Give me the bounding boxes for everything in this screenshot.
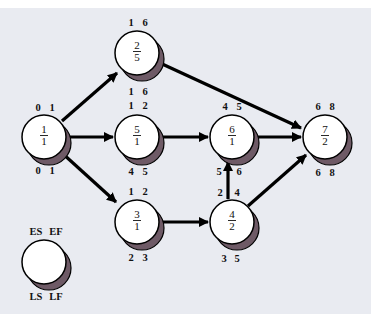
late-start: 2	[128, 252, 133, 263]
legend-ef: EF	[49, 226, 62, 237]
late-start: 6	[315, 167, 320, 178]
late-finish: 5	[142, 166, 147, 177]
late-finish: 3	[142, 252, 147, 263]
duration: 2	[229, 220, 235, 232]
activity-number: 4	[229, 208, 235, 220]
late-finish: 6	[142, 86, 147, 97]
early-finish: 1	[49, 102, 54, 113]
early-finish: 5	[236, 101, 241, 112]
duration: 1	[41, 135, 47, 147]
early-start: 6	[315, 101, 320, 112]
legend-lf: LF	[49, 291, 62, 302]
early-start: 1	[128, 17, 133, 28]
early-start: 1	[128, 186, 133, 197]
early-finish: 2	[142, 186, 147, 197]
network-diagram: 1 1 0 1 0 1 2 5 1 6 1 6 5 1 1 2 4 5 6 1	[0, 0, 371, 314]
early-start: 0	[35, 102, 40, 113]
duration: 5	[134, 51, 140, 63]
top-band	[0, 0, 371, 8]
legend-ls: LS	[30, 291, 43, 302]
late-start: 3	[221, 253, 226, 264]
late-finish: 8	[329, 167, 334, 178]
early-finish: 4	[234, 187, 240, 198]
early-finish: 8	[329, 101, 334, 112]
legend-es: ES	[30, 226, 43, 237]
activity-number: 2	[134, 39, 140, 51]
early-start: 1	[128, 100, 133, 111]
late-finish: 1	[49, 165, 54, 176]
duration: 1	[134, 220, 140, 232]
activity-number: 6	[229, 123, 235, 135]
late-finish: 5	[234, 253, 239, 264]
early-finish: 6	[142, 17, 147, 28]
activity-number: 5	[134, 123, 140, 135]
activity-number: 1	[41, 123, 47, 135]
early-finish: 2	[142, 100, 147, 111]
activity-number: 3	[134, 208, 140, 220]
activity-number: 7	[322, 123, 328, 135]
late-start: 4	[128, 166, 134, 177]
legend-node-circle	[22, 240, 66, 284]
late-finish: 6	[236, 166, 241, 177]
duration: 1	[229, 135, 235, 147]
duration: 2	[322, 135, 328, 147]
late-start: 0	[35, 165, 40, 176]
duration: 1	[134, 135, 140, 147]
late-start: 5	[216, 166, 221, 177]
late-start: 1	[128, 86, 133, 97]
early-start: 2	[217, 187, 222, 198]
early-start: 4	[222, 101, 228, 112]
